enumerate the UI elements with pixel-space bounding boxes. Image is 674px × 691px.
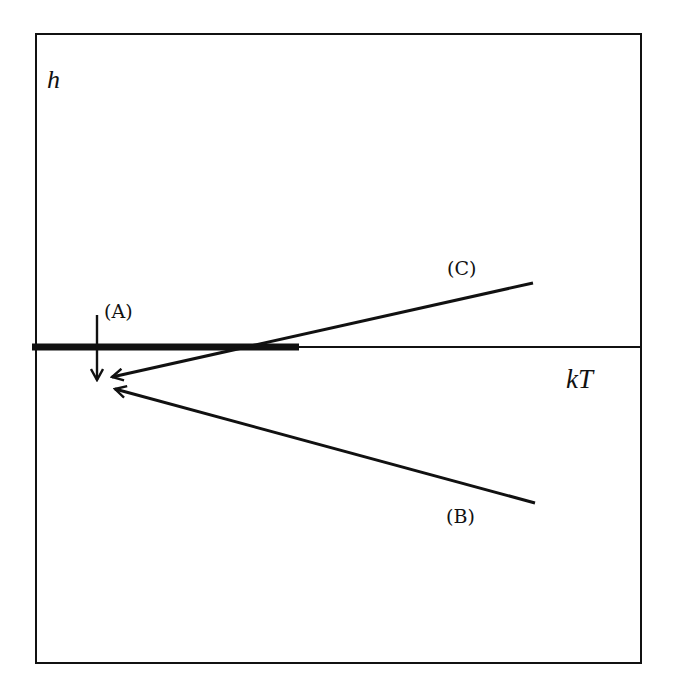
label-a: (A) xyxy=(104,300,133,322)
x-axis-label: kT xyxy=(566,364,595,394)
arrow-c-icon xyxy=(112,283,533,377)
y-axis-label: h xyxy=(47,65,60,94)
arrow-b-icon xyxy=(115,389,535,503)
phase-diagram: h kT (A) (C) (B) xyxy=(0,0,674,691)
label-b: (B) xyxy=(446,505,475,527)
label-c: (C) xyxy=(447,257,476,279)
